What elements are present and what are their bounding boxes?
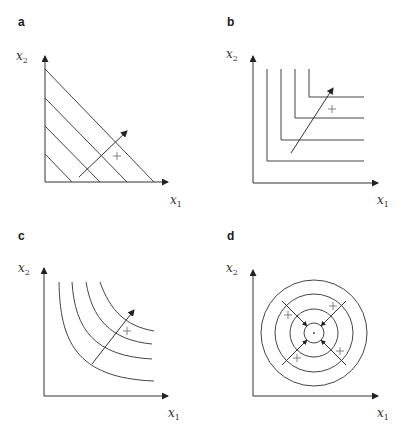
- x-axis-label: x1: [377, 406, 389, 422]
- x-axis-label: x1: [170, 193, 182, 209]
- panel-label-d: d: [227, 229, 234, 243]
- panel-a: a x2 x1: [16, 15, 182, 209]
- plus-marker: [329, 302, 337, 310]
- plus-marker: [293, 354, 301, 362]
- indifference-line: [45, 154, 72, 182]
- y-axis-label: x2: [226, 261, 238, 277]
- indifference-curve: [100, 282, 154, 331]
- y-axis-label: x2: [16, 49, 28, 65]
- plus-marker: [336, 347, 344, 355]
- gradient-arrow: [321, 340, 346, 365]
- panel-b: b x2 x1: [226, 15, 389, 209]
- x-axis-label: x1: [168, 406, 180, 422]
- gradient-arrow: [282, 301, 307, 326]
- x-axis-label: x1: [377, 193, 389, 209]
- plus-marker: [123, 327, 131, 335]
- y-axis-label: x2: [18, 261, 30, 277]
- indifference-line: [45, 98, 127, 182]
- y-axis-label: x2: [226, 47, 238, 63]
- gradient-arrow: [79, 131, 127, 177]
- panel-c: c x2 x1: [18, 229, 180, 422]
- plus-marker: [328, 105, 336, 113]
- figure-canvas: a x2 x1 b x2 x1 c x2 x1: [0, 0, 411, 434]
- panel-label-c: c: [18, 229, 25, 243]
- plus-marker: [113, 152, 121, 160]
- panel-label-b: b: [227, 15, 234, 29]
- indifference-line: [45, 69, 154, 182]
- panel-d: d x2 x1: [226, 229, 389, 422]
- gradient-arrow: [291, 88, 333, 153]
- bliss-point: [313, 332, 315, 334]
- gradient-arrow: [321, 301, 346, 326]
- plus-marker: [284, 311, 292, 319]
- indifference-line: [45, 126, 100, 182]
- gradient-arrow: [282, 340, 307, 365]
- indifference-curve: [72, 282, 152, 359]
- indifference-curve: [86, 282, 152, 344]
- panel-label-a: a: [18, 15, 25, 29]
- l-shaped-curve: [309, 69, 364, 97]
